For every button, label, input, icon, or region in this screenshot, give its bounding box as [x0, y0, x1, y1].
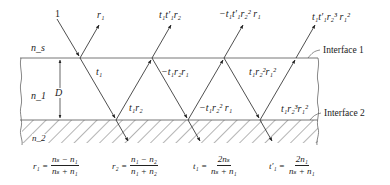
formula-r2: r₂ = n₁ − n₂n₁ + n₂	[112, 155, 158, 177]
reflected-ray-1	[80, 25, 99, 58]
thickness-label: D	[54, 88, 63, 98]
formula-t1: t₁ = 2nₛnₛ + n₁	[193, 155, 238, 177]
reflected-ray-2	[152, 25, 171, 58]
internal-label-2: t₁r₂	[129, 103, 143, 113]
interface-2-leader	[310, 113, 321, 120]
internal-label-5: t₁r₂²r₁²	[249, 67, 276, 77]
reflected-label-2: t₁t′₁r₂	[159, 10, 181, 20]
substrate-region	[22, 120, 318, 143]
film-medium-label: n_1	[31, 91, 46, 101]
internal-label-3: −t₁r₂r₁	[161, 67, 189, 77]
thin-film-diagram: n_s n_1 n_2 D Interface 1 Interface 2 1 …	[0, 0, 390, 185]
reflected-label-1: r₁	[97, 10, 104, 20]
film-left-edge	[20, 58, 22, 145]
reflected-ray-3	[224, 25, 243, 58]
top-medium-label: n_s	[31, 43, 45, 53]
reflected-label-4: t₁t′₁r₂³ r₁²	[312, 12, 350, 22]
incident-label: 1	[55, 9, 60, 19]
interface-2-label: Interface 2	[324, 109, 365, 119]
interface-1-leader	[308, 50, 320, 58]
internal-label-4: −t₁r₂² r₁	[199, 103, 232, 113]
incident-ray	[57, 19, 79, 56]
reflected-label-3: −t₁t′₁r₂² r₁	[219, 9, 261, 19]
interface-1-label: Interface 1	[323, 46, 364, 56]
formula-t1-prime: t′₁ = 2n₁nₛ + n₁	[269, 155, 316, 177]
internal-label-6: t₁r₂³r₁²	[281, 104, 308, 114]
substrate-medium-label: n_2	[32, 134, 46, 143]
formula-r1: r₁ = nₛ − n₁nₛ + n₁	[33, 155, 79, 177]
internal-label-1: t₁	[96, 67, 102, 77]
